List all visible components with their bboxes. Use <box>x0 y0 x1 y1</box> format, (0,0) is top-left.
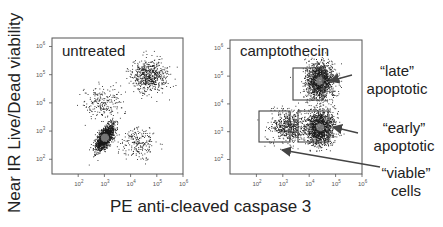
arrow-early <box>333 127 358 133</box>
svg-text:103: 103 <box>279 179 289 187</box>
panel-title-camptothecin: camptothecin <box>240 42 329 59</box>
annotation-viable-line1: “viable” <box>378 164 434 182</box>
svg-text:102: 102 <box>252 179 262 187</box>
annotation-late-line2: apoptotic <box>366 80 428 98</box>
svg-text:103: 103 <box>214 127 224 135</box>
annotation-early-line2: apoptotic <box>372 137 436 155</box>
panel-title-untreated: untreated <box>62 42 125 59</box>
svg-text:103: 103 <box>36 126 46 134</box>
annotation-late-apoptotic: “late” apoptotic <box>366 62 428 98</box>
svg-text:103: 103 <box>100 179 110 187</box>
svg-text:105: 105 <box>214 71 224 79</box>
annotation-early-apoptotic: “early” apoptotic <box>372 119 436 155</box>
svg-text:104: 104 <box>214 99 224 107</box>
annotation-viable-cells: “viable” cells <box>378 164 434 200</box>
svg-text:106: 106 <box>36 41 46 49</box>
annotation-viable-line2: cells <box>378 182 434 200</box>
axis-ticks-camptothecin: 102102103103104104105105106106 <box>214 43 368 187</box>
annotation-early-line1: “early” <box>372 119 436 137</box>
annotation-late-line1: “late” <box>366 62 428 80</box>
svg-text:106: 106 <box>358 179 368 187</box>
svg-text:104: 104 <box>36 98 46 106</box>
svg-text:104: 104 <box>305 179 315 187</box>
flow-cytometry-plots: 102102103103104104105105106106 untreated… <box>0 0 443 227</box>
svg-text:105: 105 <box>332 179 342 187</box>
svg-text:105: 105 <box>153 179 163 187</box>
svg-text:106: 106 <box>214 43 224 51</box>
panel-untreated: 102102103103104104105105106106 untreated <box>36 38 189 187</box>
svg-text:104: 104 <box>127 179 137 187</box>
svg-text:105: 105 <box>36 70 46 78</box>
scatter-points-untreated <box>77 51 178 166</box>
arrow-viable <box>282 150 380 167</box>
svg-text:102: 102 <box>74 179 84 187</box>
axis-ticks-untreated: 102102103103104104105105106106 <box>36 41 189 187</box>
svg-text:102: 102 <box>214 154 224 162</box>
svg-text:102: 102 <box>36 154 46 162</box>
panel-camptothecin: 102102103103104104105105106106 camptothe… <box>214 40 380 187</box>
svg-text:106: 106 <box>179 179 189 187</box>
